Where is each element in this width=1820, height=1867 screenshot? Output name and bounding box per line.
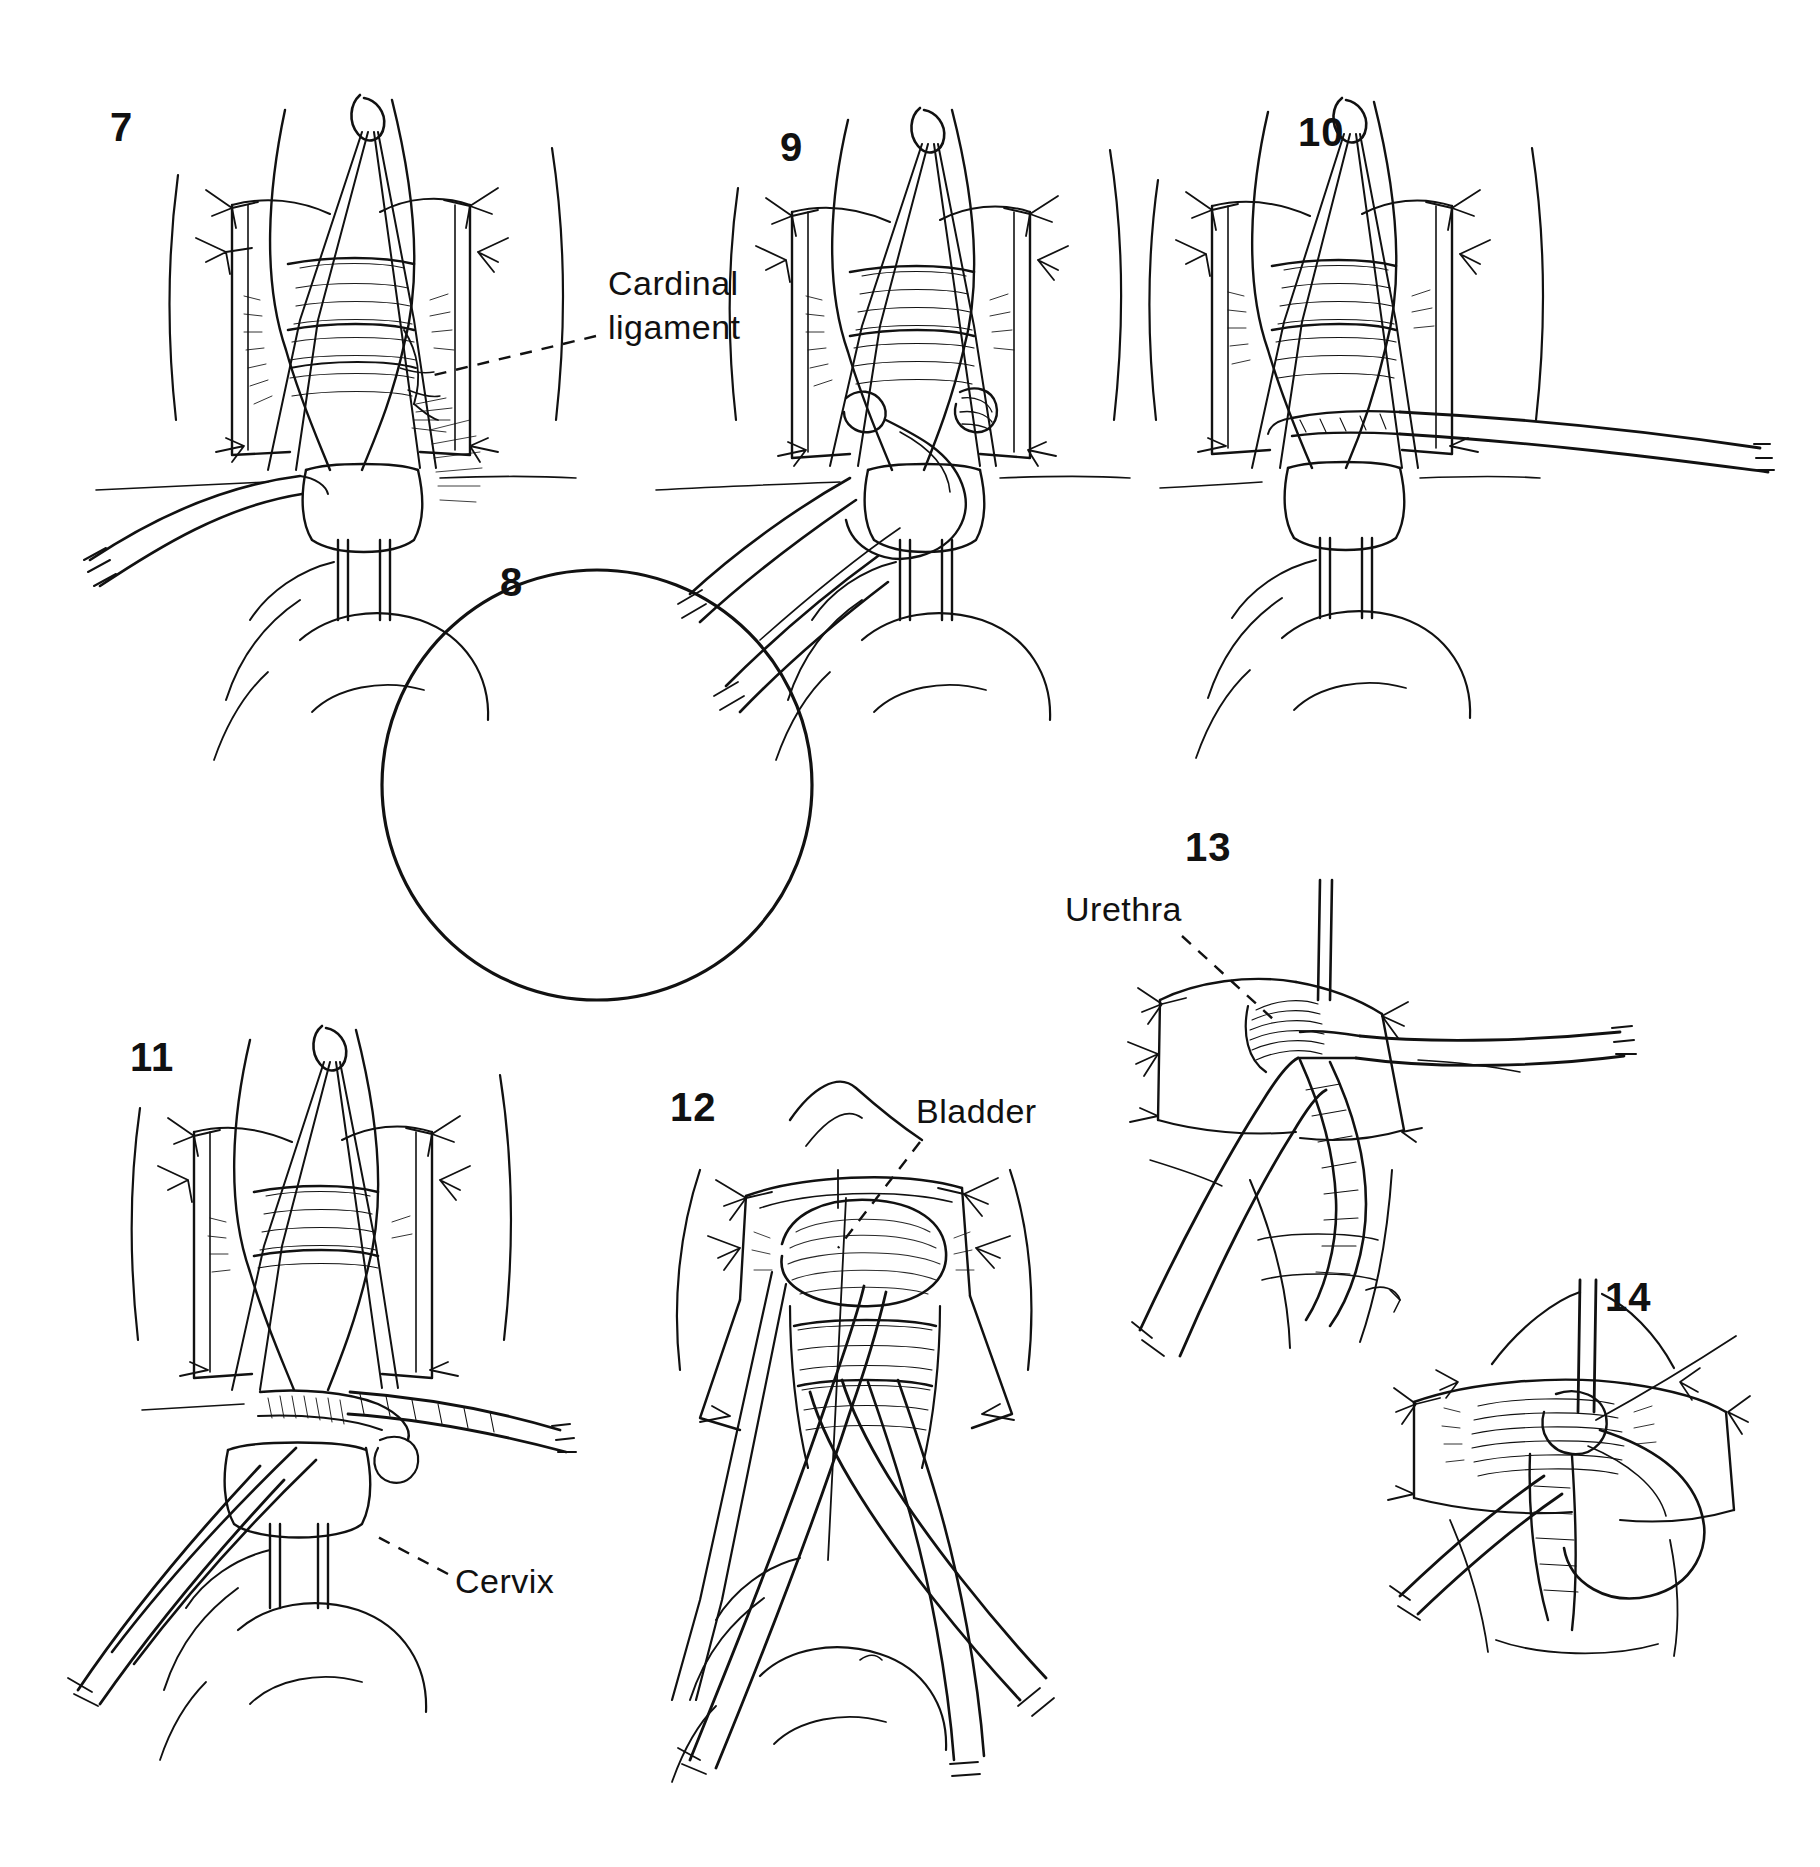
label-cervix: Cervix bbox=[455, 1560, 554, 1604]
figure-number-11: 11 bbox=[130, 1035, 174, 1080]
figure-10-art bbox=[1149, 98, 1774, 758]
figure-9-art bbox=[656, 108, 1130, 760]
figure-number-10: 10 bbox=[1298, 110, 1345, 155]
label-urethra: Urethra bbox=[1065, 888, 1182, 932]
line-art-canvas bbox=[0, 0, 1820, 1867]
figure-12-art bbox=[672, 1082, 1054, 1782]
leader-cervix bbox=[372, 1534, 448, 1574]
figure-8-art bbox=[370, 570, 812, 1000]
figure-7-art bbox=[84, 95, 576, 760]
label-cardinal-ligament: Cardinal ligament bbox=[608, 262, 741, 349]
figure-number-7: 7 bbox=[110, 105, 133, 150]
figure-13-art bbox=[1128, 880, 1636, 1356]
figure-14-art bbox=[1388, 1280, 1750, 1656]
figure-number-12: 12 bbox=[670, 1085, 717, 1130]
figure-number-13: 13 bbox=[1185, 825, 1232, 870]
label-bladder: Bladder bbox=[916, 1090, 1037, 1134]
illustration-plate: 7 8 9 10 11 12 13 14 Cardinal ligament U… bbox=[0, 0, 1820, 1867]
figure-number-9: 9 bbox=[780, 125, 803, 170]
figure-11-art bbox=[68, 1026, 576, 1760]
figure-number-8: 8 bbox=[500, 560, 523, 605]
figure-number-14: 14 bbox=[1605, 1275, 1652, 1320]
